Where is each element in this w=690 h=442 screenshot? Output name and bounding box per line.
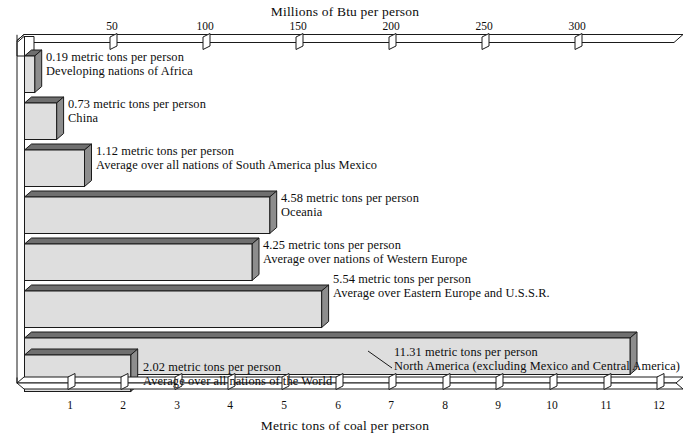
bar-label-2: 1.12 metric tons per person Average over…: [96, 144, 377, 172]
bar-name-1: China: [68, 111, 206, 125]
bar-1: [25, 97, 64, 140]
bar-name-5: Average over Eastern Europe and U.S.S.R.: [333, 286, 550, 300]
bar-name-3: Oceania: [281, 205, 419, 219]
bar-value-1: 0.73 metric tons per person: [68, 97, 206, 111]
bar-label-6: 11.31 metric tons per person North Ameri…: [394, 345, 680, 373]
bar-value-7: 2.02 metric tons per person: [143, 360, 332, 374]
bar-name-4: Average over nations of Western Europe: [263, 252, 467, 266]
bar-label-3: 4.58 metric tons per person Oceania: [281, 191, 419, 219]
bar-name-2: Average over all nations of South Americ…: [96, 158, 377, 172]
bar-label-4: 4.25 metric tons per person Average over…: [263, 238, 467, 266]
bar-value-6: 11.31 metric tons per person: [394, 345, 680, 359]
energy-consumption-bar-chart: Millions of Btu per person Metric tons o…: [0, 0, 690, 442]
bar-value-2: 1.12 metric tons per person: [96, 144, 377, 158]
bar-2: [25, 144, 92, 187]
bar-label-0: 0.19 metric tons per person Developing n…: [46, 50, 193, 78]
bar-3: [25, 191, 277, 234]
bar-name-6: North America (excluding Mexico and Cent…: [394, 359, 680, 373]
bar-label-5: 5.54 metric tons per person Average over…: [333, 272, 550, 300]
bar-4: [25, 238, 260, 281]
bar-value-0: 0.19 metric tons per person: [46, 50, 193, 64]
bar-value-5: 5.54 metric tons per person: [333, 272, 550, 286]
left-axis-baseline: [17, 37, 25, 384]
bar-value-3: 4.58 metric tons per person: [281, 191, 419, 205]
bar-label-1: 0.73 metric tons per person China: [68, 97, 206, 125]
bar-5: [25, 285, 329, 328]
bar-value-4: 4.25 metric tons per person: [263, 238, 467, 252]
bar-label-7: 2.02 metric tons per person Average over…: [143, 360, 332, 388]
bar-name-0: Developing nations of Africa: [46, 64, 193, 78]
bar-name-7: Average over all nations of the World: [143, 374, 332, 388]
